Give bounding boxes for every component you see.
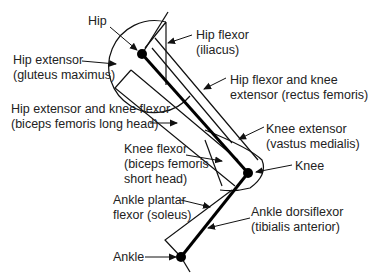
gluteus-maximus-muscle	[109, 21, 190, 113]
label-ankle-plantar-flexor: Ankle plantar flexor (soleus)	[113, 193, 192, 223]
label-knee-flexor: Knee flexor (biceps femoris short head)	[124, 142, 209, 187]
knee-pointer	[256, 165, 292, 172]
label-hip-extensor-knee-flexor: Hip extensor and knee flexor (biceps fem…	[11, 102, 170, 132]
label-hip-flexor-knee-extensor: Hip flexor and knee extensor (rectus fem…	[230, 73, 368, 103]
label-hip-extensor: Hip extensor (gluteus maximus)	[13, 53, 115, 83]
iliacus-pointer	[168, 35, 192, 43]
tibialis-pointer	[208, 218, 250, 228]
hip-joint	[137, 49, 147, 59]
label-ankle: Ankle	[113, 250, 144, 265]
rectus-femoris-pointer	[204, 78, 226, 89]
label-ankle-dorsiflexor: Ankle dorsiflexor (tibialis anterior)	[251, 205, 343, 235]
ankle-joint	[176, 252, 186, 262]
label-hip: Hip	[88, 14, 107, 29]
label-knee-extensor: Knee extensor (vastus medialis)	[266, 122, 360, 152]
hip-pointer	[110, 27, 137, 50]
vastus-medialis-pointer	[239, 127, 264, 139]
label-hip-flexor: Hip flexor (iliacus)	[196, 28, 249, 58]
knee-joint	[243, 168, 253, 178]
label-knee: Knee	[295, 159, 324, 174]
